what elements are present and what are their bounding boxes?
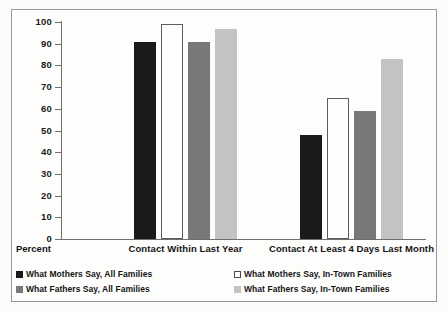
y-axis-tick-mark — [55, 152, 62, 153]
bar — [354, 111, 376, 239]
y-axis-tick-label: 20 — [6, 190, 52, 201]
y-axis-tick-mark — [55, 87, 62, 88]
plot-area — [62, 22, 425, 239]
legend-swatch-icon — [16, 286, 23, 293]
legend-label: What Mothers Say, All Families — [26, 269, 152, 279]
bar — [215, 29, 237, 239]
y-axis-tick-label: 50 — [6, 125, 52, 136]
y-axis-tick-label: 10 — [6, 211, 52, 222]
y-axis-tick-mark — [55, 217, 62, 218]
bar-group-contact-within-last-year — [134, 22, 237, 239]
chart-legend: What Mothers Say, All FamiliesWhat Mothe… — [16, 269, 426, 297]
legend-swatch-icon — [234, 286, 241, 293]
legend-item: What Fathers Say, In-Town Families — [234, 284, 389, 294]
y-axis-tick-labels: 1009080706050403020100 — [0, 0, 52, 311]
bar — [300, 135, 322, 239]
y-axis-tick-label: 40 — [6, 146, 52, 157]
y-axis-tick-mark — [55, 174, 62, 175]
y-axis-caption: Percent — [16, 243, 51, 254]
y-axis-tick-label: 70 — [6, 81, 52, 92]
bar — [327, 98, 349, 239]
bar — [161, 24, 183, 239]
y-axis-tick-label: 30 — [6, 168, 52, 179]
bar-group-contact-at-least-4-days-last-month — [300, 22, 403, 239]
bar — [134, 42, 156, 239]
chart-figure: 1009080706050403020100 Contact Within La… — [0, 0, 448, 311]
y-axis-tick-mark — [55, 44, 62, 45]
legend-swatch-icon — [16, 271, 23, 278]
legend-swatch-icon — [234, 271, 241, 278]
y-axis-tick-label: 80 — [6, 59, 52, 70]
y-axis-tick-mark — [55, 239, 62, 240]
legend-item: What Mothers Say, In-Town Families — [234, 269, 392, 279]
x-axis-line — [61, 239, 426, 240]
y-axis-tick-label: 90 — [6, 38, 52, 49]
y-axis-tick-mark — [55, 196, 62, 197]
legend-label: What Fathers Say, All Families — [26, 284, 150, 294]
legend-label: What Fathers Say, In-Town Families — [244, 284, 389, 294]
bar — [188, 42, 210, 239]
y-axis-tick-mark — [55, 109, 62, 110]
y-axis-tick-label: 100 — [6, 16, 52, 27]
y-axis-tick-mark — [55, 22, 62, 23]
y-axis-tick-label: 60 — [6, 103, 52, 114]
bar — [381, 59, 403, 239]
y-axis-tick-mark — [55, 65, 62, 66]
category-label: Contact At Least 4 Days Last Month — [242, 243, 448, 254]
legend-item: What Mothers Say, All Families — [16, 269, 152, 279]
y-axis-tick-mark — [55, 131, 62, 132]
legend-item: What Fathers Say, All Families — [16, 284, 150, 294]
legend-label: What Mothers Say, In-Town Families — [244, 269, 392, 279]
